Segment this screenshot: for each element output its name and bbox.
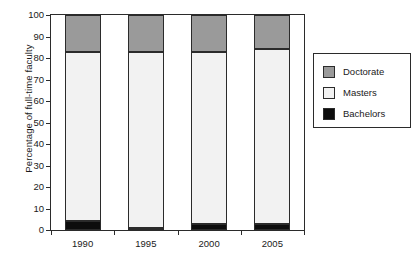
plot-area: 01020304050607080901001990199520002005 bbox=[50, 14, 305, 231]
y-axis-tick-label: 80 bbox=[33, 53, 44, 63]
y-axis-tick bbox=[46, 209, 51, 210]
bar-segment-doctorate-2000 bbox=[191, 15, 227, 52]
legend-swatch-bachelors bbox=[323, 108, 335, 120]
bar-segment-doctorate-1990 bbox=[65, 15, 101, 52]
legend-label-doctorate: Doctorate bbox=[343, 67, 384, 77]
legend-swatch-doctorate bbox=[323, 66, 335, 78]
bar-segment-bachelors-2000 bbox=[191, 224, 227, 230]
legend-label-masters: Masters bbox=[343, 88, 377, 98]
y-axis-tick bbox=[46, 101, 51, 102]
x-axis-tick-label: 1990 bbox=[72, 238, 93, 249]
bar-2000 bbox=[191, 15, 227, 230]
chart-legend: Doctorate Masters Bachelors bbox=[313, 53, 411, 128]
x-axis-tick-label: 2005 bbox=[262, 238, 283, 249]
x-axis-tick bbox=[178, 230, 179, 235]
bar-segment-doctorate-2005 bbox=[254, 15, 290, 49]
y-axis-tick bbox=[46, 58, 51, 59]
x-axis-tick-label: 1995 bbox=[135, 238, 156, 249]
x-axis-tick bbox=[51, 230, 52, 235]
bar-segment-masters-1995 bbox=[128, 52, 164, 228]
bar-segment-masters-2000 bbox=[191, 52, 227, 224]
y-axis-tick bbox=[46, 80, 51, 81]
legend-swatch-masters bbox=[323, 87, 335, 99]
y-axis-tick-label: 100 bbox=[28, 10, 44, 20]
y-axis-tick-label: 0 bbox=[39, 225, 44, 235]
legend-label-bachelors: Bachelors bbox=[343, 109, 385, 119]
y-axis-title: Percentage of full-time faculty bbox=[23, 6, 34, 211]
y-axis-tick-label: 10 bbox=[33, 204, 44, 214]
y-axis-tick-label: 70 bbox=[33, 75, 44, 85]
legend-item-doctorate: Doctorate bbox=[323, 61, 410, 82]
bar-segment-bachelors-2005 bbox=[254, 224, 290, 230]
y-axis-tick-label: 90 bbox=[33, 32, 44, 42]
y-axis-tick bbox=[46, 144, 51, 145]
y-axis-tick bbox=[46, 15, 51, 16]
bar-segment-doctorate-1995 bbox=[128, 15, 164, 52]
plot-inner: 01020304050607080901001990199520002005 bbox=[51, 15, 304, 230]
y-axis-tick bbox=[46, 123, 51, 124]
y-axis-tick bbox=[46, 37, 51, 38]
x-axis-tick-label: 2000 bbox=[199, 238, 220, 249]
bar-1990 bbox=[65, 15, 101, 230]
y-axis-tick-label: 40 bbox=[33, 139, 44, 149]
legend-item-masters: Masters bbox=[323, 82, 410, 103]
y-axis-tick-label: 50 bbox=[33, 118, 44, 128]
x-axis-tick bbox=[114, 230, 115, 235]
y-axis-tick bbox=[46, 166, 51, 167]
y-axis-tick bbox=[46, 187, 51, 188]
bar-1995 bbox=[128, 15, 164, 230]
x-axis-tick bbox=[304, 230, 305, 235]
chart-container: Percentage of full-time faculty 01020304… bbox=[0, 0, 420, 262]
bar-segment-bachelors-1995 bbox=[128, 228, 164, 230]
bar-2005 bbox=[254, 15, 290, 230]
y-axis-tick-label: 20 bbox=[33, 182, 44, 192]
legend-item-bachelors: Bachelors bbox=[323, 103, 410, 124]
bar-segment-masters-2005 bbox=[254, 49, 290, 223]
bar-segment-bachelors-1990 bbox=[65, 221, 101, 230]
y-axis-tick-label: 30 bbox=[33, 161, 44, 171]
y-axis-tick-label: 60 bbox=[33, 96, 44, 106]
bar-segment-masters-1990 bbox=[65, 52, 101, 222]
x-axis-tick bbox=[241, 230, 242, 235]
